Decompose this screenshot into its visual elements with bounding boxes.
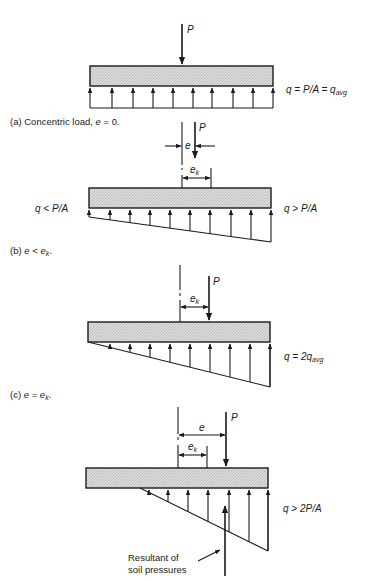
pressure-label-left: q < P/A xyxy=(35,203,68,214)
dim-ek-label: ek xyxy=(190,293,200,305)
soil-pressure-diagram: P q = P/A = qavg (a) Concentric load, e … xyxy=(0,0,370,582)
caption-a: (a) Concentric load, e = 0. xyxy=(10,116,120,127)
pressure-arrows xyxy=(88,342,270,387)
caption-c: (c) e = ek. xyxy=(10,389,51,401)
footing xyxy=(90,66,273,86)
pressure-label-right: q = P/A = qavg xyxy=(286,84,347,97)
pressure-label-right: q > P/A xyxy=(284,203,317,214)
dim-ek-label: ek xyxy=(188,441,198,453)
pressure-arrows xyxy=(140,488,268,551)
resultant-leader xyxy=(198,550,220,561)
panel-a: P q = P/A = qavg (a) Concentric load, e … xyxy=(10,24,347,127)
dim-e-label: e xyxy=(185,140,191,151)
dim-e-label: e xyxy=(199,422,205,433)
pressure-label-right: q > 2P/A xyxy=(283,503,322,514)
pressure-label-right: q = 2qavg xyxy=(284,351,323,364)
resultant-label-1: Resultant of xyxy=(128,552,179,563)
panel-b: P e ek q < P/A q > P/A (b) e < ek. xyxy=(10,122,317,257)
panel-c: P ek q = 2qavg (c) e = ek. xyxy=(10,265,323,401)
dim-ek-label: ek xyxy=(190,164,200,176)
resultant-label-2: soil pressures xyxy=(128,564,187,575)
panel-d: P e ek q > 2P/A Resultant of soil pressu… xyxy=(86,407,322,576)
load-label: P xyxy=(199,122,206,133)
load-label: P xyxy=(187,24,194,35)
caption-b: (b) e < ek. xyxy=(10,245,52,257)
footing xyxy=(86,468,268,488)
pressure-arrows xyxy=(89,210,271,242)
footing xyxy=(89,188,271,208)
footing xyxy=(88,322,270,342)
pressure-arrows xyxy=(90,88,273,108)
load-label: P xyxy=(213,276,220,287)
load-label: P xyxy=(231,412,238,423)
